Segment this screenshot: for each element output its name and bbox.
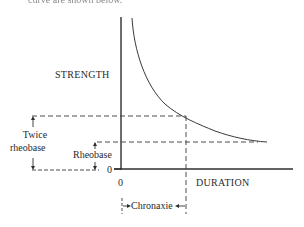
arrow-left-icon: [175, 204, 179, 208]
x-axis-label: DURATION: [196, 177, 250, 188]
y-axis-label: STRENGTH: [55, 69, 110, 80]
arrow-down-icon: [31, 166, 35, 170]
x-origin-label: 0: [118, 177, 123, 188]
strength-duration-diagram: [0, 0, 304, 227]
rheobase-label: Rheobase: [73, 149, 112, 160]
arrow-down-icon: [93, 166, 97, 170]
strength-duration-curve: [132, 18, 267, 142]
arrow-up-icon: [31, 116, 35, 120]
twice-rheobase-label-line2: rheobase: [10, 142, 46, 153]
twice-rheobase-label-line1: Twice: [22, 129, 48, 140]
arrow-up-icon: [93, 142, 97, 146]
chronaxie-label: Chronaxie: [131, 200, 173, 211]
y-origin-label: 0: [107, 164, 112, 175]
